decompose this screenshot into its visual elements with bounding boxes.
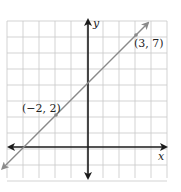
point-a-label: (−2, 2) [22, 102, 61, 115]
coordinate-plane: (−2, 2) (3, 7) y x [0, 0, 181, 192]
point-b-label: (3, 7) [134, 37, 164, 50]
x-axis-label: x [158, 150, 165, 163]
y-axis-label: y [92, 17, 100, 30]
